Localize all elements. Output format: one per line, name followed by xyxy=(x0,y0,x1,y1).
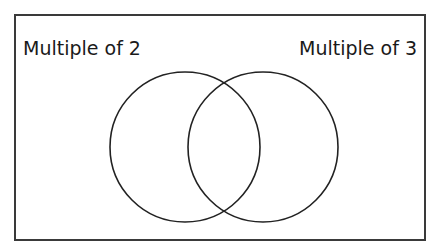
venn-diagram xyxy=(0,0,439,251)
circle-multiple-of-2 xyxy=(110,72,260,222)
circle-multiple-of-3 xyxy=(188,72,338,222)
